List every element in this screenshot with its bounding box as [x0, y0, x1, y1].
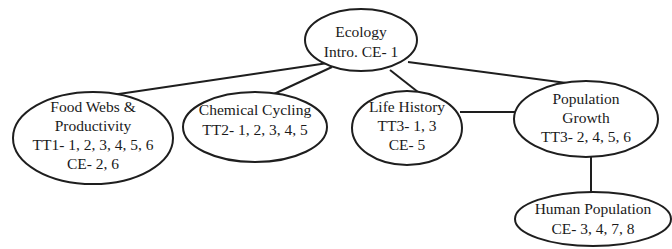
edge-ecology-chemical-cycling — [274, 67, 332, 94]
node-chemical-cycling-tt: TT2- 1, 2, 3, 4, 5 — [202, 121, 308, 138]
node-human-population-title: Human Population — [535, 200, 652, 217]
node-ecology-ellipse — [305, 9, 417, 71]
node-food-webs-title-1: Food Webs & — [50, 98, 135, 115]
node-food-webs-title-2: Productivity — [55, 117, 132, 134]
node-population-growth-tt: TT3- 2, 4, 5, 6 — [541, 128, 631, 145]
node-human-population-ce: CE- 3, 4, 7, 8 — [551, 220, 634, 237]
node-population-growth: Population Growth TT3- 2, 4, 5, 6 — [514, 81, 658, 157]
node-chemical-cycling: Chemical Cycling TT2- 1, 2, 3, 4, 5 — [183, 92, 327, 162]
edge-ecology-population-growth — [408, 62, 574, 84]
node-ecology: Ecology Intro. CE- 1 — [305, 9, 417, 71]
node-food-webs-ce: CE- 2, 6 — [67, 155, 119, 172]
node-human-population: Human Population CE- 3, 4, 7, 8 — [515, 192, 671, 246]
node-life-history-tt: TT3- 1, 3 — [378, 117, 437, 134]
node-food-webs-tt: TT1- 1, 2, 3, 4, 5, 6 — [33, 136, 154, 153]
node-life-history: Life History TT3- 1, 3 CE- 5 — [352, 91, 462, 165]
ecology-concept-map: Ecology Intro. CE- 1 Food Webs & Product… — [0, 0, 672, 249]
node-population-growth-title-1: Population — [552, 90, 619, 107]
edge-ecology-food-webs — [112, 63, 328, 95]
node-ecology-detail: Intro. CE- 1 — [324, 43, 398, 60]
node-chemical-cycling-title: Chemical Cycling — [199, 101, 312, 118]
edge-ecology-life-history — [390, 70, 418, 92]
node-life-history-title: Life History — [369, 98, 445, 115]
node-life-history-ce: CE- 5 — [389, 136, 426, 153]
node-food-webs: Food Webs & Productivity TT1- 1, 2, 3, 4… — [13, 92, 173, 184]
node-population-growth-title-2: Growth — [562, 109, 610, 126]
node-ecology-title: Ecology — [335, 23, 387, 40]
